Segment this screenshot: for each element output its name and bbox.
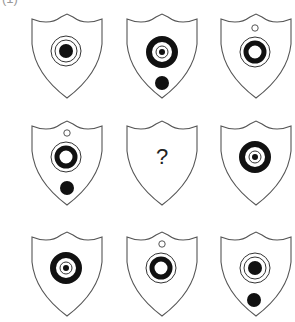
concentric-target-icon: [51, 36, 81, 66]
question-mark: ?: [156, 144, 168, 169]
bottom-dot-icon: [155, 76, 169, 90]
shield-r3c2: [127, 232, 197, 316]
concentric-target-icon: [240, 253, 270, 283]
shield-r1c3: [221, 14, 291, 98]
bottom-dot-icon: [247, 293, 261, 307]
shield-r2c3: [221, 121, 291, 205]
shield-r3c3: [221, 232, 291, 316]
bottom-dot-icon: [60, 181, 74, 195]
shield-r1c2: [127, 14, 197, 98]
shield-puzzle-grid: ?: [0, 0, 295, 322]
shield-r2c1: [32, 121, 102, 205]
shield-r2c2-question: ?: [127, 121, 197, 205]
shield-r1c1: [32, 14, 102, 98]
shield-r3c1: [32, 232, 102, 316]
